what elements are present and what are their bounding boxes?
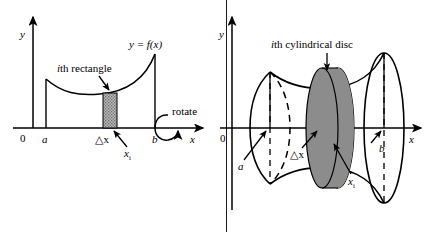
ith-disc-label: ith cylindrical disc: [271, 38, 353, 50]
right-bound-a-arrow: [244, 131, 266, 160]
right-bound-a-label: a: [238, 160, 244, 172]
figure-root: ith rectangle y = f(x) y x 0 a b △x xi r…: [0, 0, 431, 232]
right-sample-point-label: xi: [347, 175, 355, 190]
right-sample-point-subscript: i: [353, 182, 355, 190]
ith-rectangle-label: ith rectangle: [57, 62, 112, 74]
right-y-axis-label: y: [218, 28, 224, 40]
left-diagram-svg: ith rectangle y = f(x) y x 0 a b △x xi r…: [0, 0, 216, 232]
left-sample-point-label: xi: [123, 147, 131, 162]
right-x-axis-label: x: [408, 133, 414, 145]
disc-near-face: [306, 68, 338, 188]
ith-rectangle: [103, 93, 117, 128]
right-bound-b-label: b: [379, 142, 385, 154]
ith-disc-label-rest: th cylindrical disc: [274, 38, 353, 50]
left-bound-a-label: a: [42, 133, 48, 145]
left-delta-x-label: △x: [95, 133, 109, 145]
rotate-label: rotate: [172, 105, 197, 117]
right-panel-solid-of-revolution: ith cylindrical disc y x 0 a △x xi b: [216, 0, 431, 232]
curve-equation-label: y = f(x): [128, 38, 162, 51]
right-diagram-svg: ith cylindrical disc y x 0 a △x xi b: [216, 0, 431, 232]
right-origin-label: 0: [220, 132, 226, 144]
left-x-axis-label: x: [189, 133, 195, 145]
left-panel-region-under-curve: ith rectangle y = f(x) y x 0 a b △x xi r…: [0, 0, 216, 232]
ith-rectangle-label-rest: th rectangle: [60, 62, 112, 74]
left-sample-point-arrow: [114, 131, 127, 147]
ith-rectangle-callout-arrow: [99, 76, 109, 90]
left-y-axis-label: y: [19, 28, 25, 40]
left-sample-point-subscript: i: [129, 154, 131, 162]
right-delta-x-label: △x: [290, 148, 304, 160]
function-curve: [46, 54, 155, 95]
left-origin-label: 0: [20, 132, 26, 144]
